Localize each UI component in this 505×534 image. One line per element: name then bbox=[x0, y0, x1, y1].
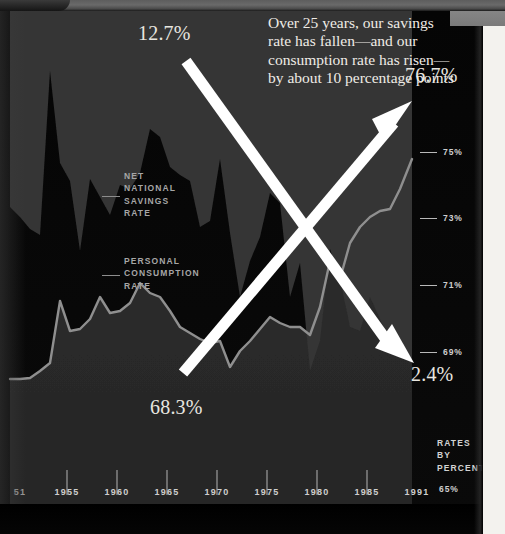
scanned-infographic: 12.7% 68.3% 76.7% 2.4% Over 25 years, ou… bbox=[0, 0, 505, 534]
x-axis-label-1970: 1970 bbox=[205, 487, 230, 497]
x-axis-label-1975: 1975 bbox=[255, 487, 280, 497]
savings-legend-rule bbox=[102, 196, 120, 197]
scan-right-shadow bbox=[474, 22, 483, 534]
x-axis-label-1991: 1991 bbox=[405, 487, 430, 497]
legend-net-national-savings-rate: NET NATIONAL SAVINGS RATE bbox=[124, 170, 176, 219]
y-axis-label-71: 71% bbox=[443, 280, 463, 290]
scan-top-strip bbox=[0, 0, 505, 11]
y-axis-label-73: 73% bbox=[443, 213, 463, 223]
savings-start-label: 12.7% bbox=[138, 22, 191, 45]
scan-bottom-fade bbox=[0, 504, 505, 534]
consumption-legend-rule bbox=[102, 275, 120, 276]
y-axis-rule-69 bbox=[420, 352, 437, 353]
page-right-margin bbox=[483, 22, 505, 534]
x-axis-label-1960: 1960 bbox=[105, 487, 130, 497]
y-axis-rule-75 bbox=[420, 152, 437, 153]
x-axis-label-1965: 1965 bbox=[155, 487, 180, 497]
x-axis-label-1985: 1985 bbox=[355, 487, 380, 497]
figure-caption: Over 25 years, our savings rate has fall… bbox=[268, 14, 458, 87]
x-axis-label-1955: 1955 bbox=[55, 487, 80, 497]
y-axis-rule-71 bbox=[420, 285, 437, 286]
savings-end-label: 2.4% bbox=[411, 363, 453, 386]
x-axis-label-1951: 51 bbox=[14, 487, 26, 497]
y-axis-label-75: 75% bbox=[443, 147, 463, 157]
x-axis-label-1980: 1980 bbox=[305, 487, 330, 497]
consumption-start-label: 68.3% bbox=[150, 396, 203, 419]
y-axis-label-69: 69% bbox=[443, 347, 463, 357]
legend-personal-consumption-rate: PERSONAL CONSUMPTION RATE bbox=[124, 255, 200, 292]
y-axis-label-65: 65% bbox=[439, 484, 459, 494]
y-axis-rule-73 bbox=[420, 218, 437, 219]
